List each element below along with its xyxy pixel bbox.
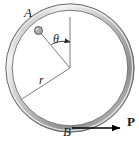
label-radius-r: r [39,74,44,86]
figure-canvas [0,0,139,144]
physics-figure-bead-on-ring: A B r θ P [0,0,139,144]
bead [35,27,43,35]
label-angle-theta: θ [53,33,59,45]
label-force-p: P [127,115,135,128]
construction-lines [22,17,70,99]
label-point-b: B [63,125,71,138]
label-point-a: A [24,6,32,19]
bead-highlight [36,28,39,31]
radius-line-r [22,68,70,99]
